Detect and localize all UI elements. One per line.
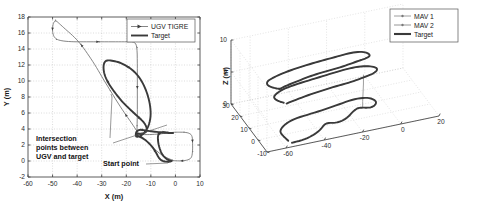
right-ztick-label: 0 [223,100,227,107]
left-legend: UGV TIGRE Target [127,19,195,42]
left-ytick-label: 2 [21,141,25,148]
ugv-sample-marker [110,90,111,91]
right-xtick-label: 0 [401,126,405,133]
figure-container: -60-50-40-30-20-10010-2024681012141618 [0,0,480,207]
start-point-annotation-label: Start point [103,159,140,168]
ugv-sample-marker [136,125,137,126]
left-xtick-label: -10 [146,180,156,187]
right-zaxis-title: Z (m) [221,66,230,85]
right-xtick-label: -40 [322,142,332,149]
intersection-annotation-line-2: points between [36,143,88,152]
right-ytick-label: 0 [251,138,255,145]
left-ytick-label: 12 [18,61,26,68]
left-xtick-label: -20 [122,180,132,187]
right-xtick-label: -60 [283,150,293,157]
legend-label-target: Target [414,31,433,39]
start-point-annotation: Start point [103,159,140,168]
mav-descent-segment [363,75,364,108]
left-xtick-label: -30 [97,180,107,187]
legend-label-mav-1: MAV 1 [414,13,434,20]
left-xtick-label: -40 [72,180,82,187]
right-ytick-label: -10 [257,150,267,157]
left-yaxis-title: Y (m) [2,87,11,106]
left-ytick-label: 16 [18,29,26,36]
right-ztick-label: 10 [220,36,227,43]
ugv-sample-marker [56,39,57,40]
direction-arrow [96,41,99,44]
left-xtick-label: -50 [48,180,58,187]
legend-label-ugv-tigre: UGV TIGRE [151,23,189,30]
left-ytick-label: -2 [19,173,25,180]
right-xtick-label: -20 [360,134,370,141]
ugv-2d-plot-panel: -60-50-40-30-20-10010-2024681012141618 [0,0,220,207]
ugv-sample-marker [136,47,137,48]
right-legend: MAV 1 MAV 2 Target [390,9,458,42]
mav-3d-plot-svg: -60-40-20020-1001020300510 Z (m) MAV 1 [220,0,480,207]
direction-arrow [136,86,139,89]
left-xtick-label: -60 [23,180,33,187]
left-ytick-label: 4 [21,125,25,132]
ugv-2d-plot-svg: -60-50-40-30-20-10010-2024681012141618 [0,0,220,207]
right-ytick-label: 10 [240,126,248,133]
left-ytick-label: 6 [21,109,25,116]
right-xtick-label: 20 [437,118,445,125]
left-ytick-label: 0 [21,157,25,164]
left-xaxis-title: X (m) [105,192,124,201]
right-tick-labels: -60-40-20020-1001020300510 [220,36,445,157]
left-xtick-label: 10 [196,180,204,187]
left-xtick-label: 0 [174,180,178,187]
right-ytick-label: 20 [231,114,239,121]
intersection-annotation-line-1: Intersection [36,134,77,143]
left-series-target [104,60,174,163]
left-ytick-label: 18 [18,13,26,20]
intersection-annotation: Intersection points between UGV and targ… [36,134,89,161]
intersection-annotation-line-3: UGV and target [36,152,89,161]
legend-label-mav-2: MAV 2 [414,22,434,29]
direction-arrow [191,140,194,143]
left-ytick-label: 10 [18,77,26,84]
legend-label-target: Target [151,32,170,40]
left-ytick-label: 14 [18,45,26,52]
ugv-sample-marker [55,20,56,21]
mav-3d-plot-panel: -60-40-20020-1001020300510 Z (m) MAV 1 [220,0,480,207]
left-ytick-label: 8 [21,93,25,100]
ugv-sample-marker [192,151,193,152]
ugv-sample-marker [183,132,184,133]
